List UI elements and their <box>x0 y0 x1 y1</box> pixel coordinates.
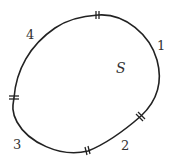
diagram-canvas: 1 2 3 4 S <box>0 0 174 161</box>
arc-label-4: 4 <box>26 27 34 42</box>
arc-label-1: 1 <box>157 38 165 53</box>
arc-label-3: 3 <box>13 137 21 152</box>
arc-label-2: 2 <box>121 138 129 153</box>
closed-curve <box>13 15 160 153</box>
region-label: S <box>116 60 126 76</box>
closed-curve-diagram: 1 2 3 4 S <box>0 0 174 161</box>
